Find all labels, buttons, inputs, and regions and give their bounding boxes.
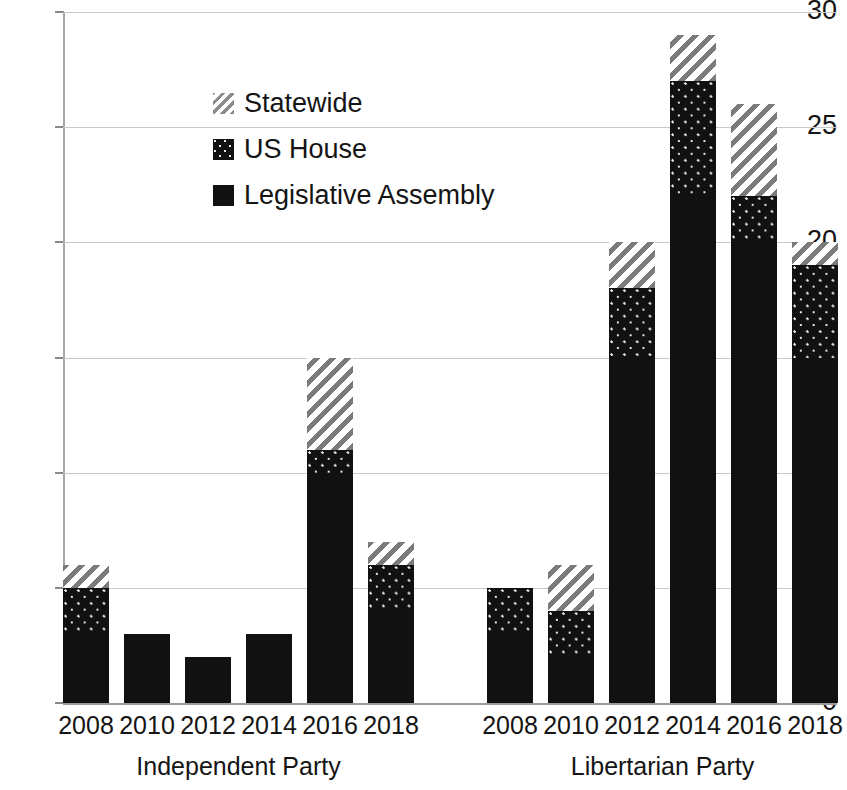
bar-segment [487, 588, 533, 634]
bar [307, 358, 353, 704]
bar-segment [548, 565, 594, 611]
bar-segment [792, 242, 838, 265]
bar-segment [185, 657, 231, 703]
bar-segment [792, 265, 838, 357]
legend-swatch-solid-icon [213, 185, 234, 206]
bar [124, 634, 170, 703]
gridline [63, 588, 837, 589]
axis-baseline [63, 703, 837, 705]
bar-segment [792, 358, 838, 704]
legend-item: US House [213, 126, 513, 172]
bar [731, 104, 777, 703]
gridline [63, 12, 837, 13]
bar [487, 588, 533, 703]
chart-legend: StatewideUS HouseLegislative Assembly [213, 80, 513, 218]
gridline [63, 242, 837, 243]
bar-segment [124, 634, 170, 703]
legend-swatch-dotted-icon [213, 139, 234, 160]
bar [670, 35, 716, 703]
bar [368, 542, 414, 703]
bar-segment [368, 611, 414, 703]
bar-segment [63, 634, 109, 703]
bar [792, 242, 838, 703]
bar [185, 657, 231, 703]
bar-segment [731, 196, 777, 242]
bar [548, 565, 594, 703]
x-axis-tick-label: 2018 [352, 711, 430, 739]
gridline [63, 473, 837, 474]
bar [246, 634, 292, 703]
gridline [63, 358, 837, 359]
x-axis-tick-label: 2018 [776, 711, 847, 739]
legend-swatch-hatched-icon [213, 93, 234, 114]
bar-segment [609, 288, 655, 357]
bar-segment [246, 634, 292, 703]
legend-item: Legislative Assembly [213, 172, 513, 218]
legend-item-label: Legislative Assembly [244, 181, 495, 209]
bar-segment [731, 104, 777, 196]
legend-item-label: US House [244, 135, 367, 163]
bar-segment [731, 242, 777, 703]
group-label-independent-party: Independent Party [79, 752, 399, 780]
bar [63, 565, 109, 703]
bar-segment [670, 196, 716, 703]
bar-segment [63, 565, 109, 588]
bar-segment [63, 588, 109, 634]
legend-item: Statewide [213, 80, 513, 126]
bar-segment [609, 242, 655, 288]
bar-segment [307, 450, 353, 473]
group-label-libertarian-party: Libertarian Party [503, 752, 823, 780]
bar-segment [307, 358, 353, 450]
legend-item-label: Statewide [244, 89, 363, 117]
bar-segment [368, 565, 414, 611]
bar [609, 242, 655, 703]
bar-segment [609, 358, 655, 704]
bar-segment [548, 657, 594, 703]
bar-segment [548, 611, 594, 657]
bar-segment [670, 81, 716, 196]
bar-segment [487, 634, 533, 703]
bar-segment [307, 473, 353, 703]
bar-segment [368, 542, 414, 565]
bar-segment [670, 35, 716, 81]
